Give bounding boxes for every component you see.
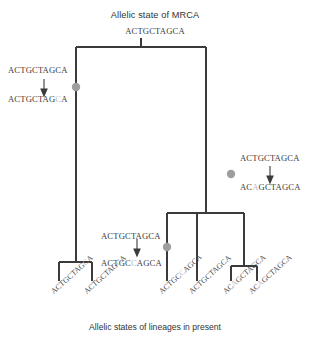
mutation-right-after-prefix: AC xyxy=(240,182,252,192)
mutation-left-after-prefix: ACTGCTAG xyxy=(8,94,55,104)
mutation-left-after: ACTGCTAGCA xyxy=(8,94,68,104)
mutation-left-after-suffix: A xyxy=(61,94,67,104)
mutation-dot-right xyxy=(227,170,235,178)
mutation-dot-middle xyxy=(163,243,171,251)
mutation-middle-after-suffix: AGCA xyxy=(137,258,162,268)
phylogenetic-tree-diagram: Allelic state of MRCA ACTGCTAGCA xyxy=(0,0,310,338)
mutation-right-after: ACAGCTAGCA xyxy=(240,182,301,192)
mutation-right-before: ACTGCTAGCA xyxy=(240,153,300,163)
tree-branches-svg xyxy=(0,0,310,338)
mutation-left-before: ACTGCTAGCA xyxy=(8,65,68,75)
mutation-middle-before: ACTGCTAGCA xyxy=(101,231,161,241)
mutation-dot-left xyxy=(72,83,80,91)
mutation-right-after-suffix: GCTAGCA xyxy=(259,182,301,192)
mutation-arrow-middle-head xyxy=(134,249,140,256)
diagram-caption: Allelic states of lineages in present xyxy=(0,322,310,332)
